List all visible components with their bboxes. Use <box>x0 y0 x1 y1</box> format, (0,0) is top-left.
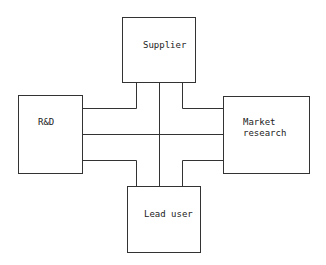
rnd-label: R&D <box>38 117 54 128</box>
lead-user-box: Lead user <box>127 186 201 253</box>
market-research-label: Market research <box>243 117 286 139</box>
rnd-box: R&D <box>18 95 83 174</box>
diagram-canvas: Supplier R&D Market research Lead user <box>0 0 326 265</box>
supplier-box: Supplier <box>122 17 196 83</box>
lead-user-label: Lead user <box>144 209 193 220</box>
supplier-label: Supplier <box>143 40 186 51</box>
market-research-box: Market research <box>223 96 310 174</box>
